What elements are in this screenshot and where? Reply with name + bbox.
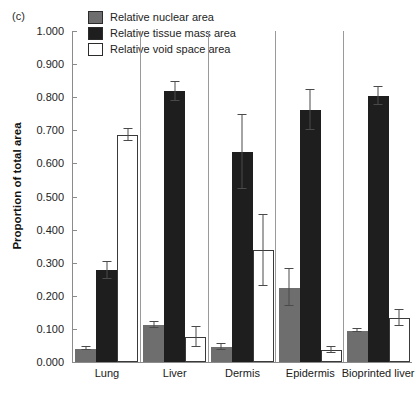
error-bar — [195, 327, 196, 348]
legend-item-label: Relative nuclear area — [110, 11, 214, 24]
bar-group-bars — [209, 31, 277, 362]
y-axis-tick-label: 0.100 — [4, 323, 64, 335]
error-bar-cap-top — [306, 89, 315, 90]
error-bar-cap-bottom — [327, 352, 336, 353]
error-bar-cap-top — [102, 261, 111, 262]
error-bar-cap-top — [327, 346, 336, 347]
error-bar-cap-bottom — [374, 104, 383, 105]
bar[interactable] — [143, 325, 164, 362]
bar[interactable] — [347, 331, 368, 362]
error-bar — [106, 262, 107, 279]
error-bar — [289, 269, 290, 305]
error-bar-cap-bottom — [285, 305, 294, 306]
error-bar-cap-bottom — [170, 100, 179, 101]
y-axis-tick-label: 0.900 — [4, 58, 64, 70]
error-bar-cap-top — [217, 343, 226, 344]
y-axis-tick-label: 0.300 — [4, 257, 64, 269]
bar[interactable] — [117, 135, 138, 362]
plot-area: 0.0000.1000.2000.3000.4000.5000.6000.700… — [72, 31, 412, 363]
error-bar — [174, 82, 175, 101]
error-bar-cap-bottom — [353, 331, 362, 332]
y-axis-tick-label: 0.400 — [4, 224, 64, 236]
error-bar-cap-top — [191, 326, 200, 327]
bar-slot — [368, 31, 389, 362]
error-bar-cap-top — [285, 268, 294, 269]
y-axis-tick-label: 0.200 — [4, 290, 64, 302]
error-bar-cap-top — [123, 128, 132, 129]
error-bar-cap-top — [395, 309, 404, 310]
bar-slot — [347, 31, 368, 362]
x-axis-line — [72, 362, 412, 363]
error-bar-cap-bottom — [238, 188, 247, 189]
bar-group-bars — [141, 31, 209, 362]
error-bar — [310, 90, 311, 130]
error-bar-cap-top — [170, 81, 179, 82]
panel-label: (c) — [12, 10, 25, 22]
bar-slot — [232, 31, 253, 362]
error-bar-cap-top — [353, 328, 362, 329]
error-bar-cap-top — [374, 86, 383, 87]
bar-slot — [253, 31, 274, 362]
y-axis-tick-mark — [73, 362, 77, 363]
error-bar-cap-bottom — [306, 129, 315, 130]
error-bar-cap-bottom — [149, 327, 158, 328]
error-bar-cap-top — [81, 346, 90, 347]
error-bar-cap-bottom — [217, 349, 226, 350]
bar-group-bars — [276, 31, 344, 362]
bar[interactable] — [368, 96, 389, 362]
legend-swatch-nuclear — [88, 11, 103, 24]
y-axis-tick-label: 0.600 — [4, 157, 64, 169]
bar[interactable] — [300, 110, 321, 362]
bar[interactable] — [96, 270, 117, 362]
bar[interactable] — [75, 349, 96, 362]
bar-group: Liver — [141, 31, 209, 362]
bar-slot — [164, 31, 185, 362]
bar-group: Epidermis — [276, 31, 344, 362]
error-bar-cap-bottom — [123, 140, 132, 141]
error-bar — [399, 310, 400, 326]
error-bar-cap-top — [149, 321, 158, 322]
error-bar-cap-top — [238, 114, 247, 115]
x-axis-category-label: Bioprinted liver — [330, 367, 416, 380]
bar-slot — [75, 31, 96, 362]
bar-group-bars — [73, 31, 141, 362]
error-bar — [378, 87, 379, 106]
bar-slot — [321, 31, 342, 362]
bar-groups: LungLiverDermisEpidermisBioprinted liver — [73, 31, 412, 362]
bar-slot — [279, 31, 300, 362]
bar-group: Lung — [73, 31, 141, 362]
bar[interactable] — [164, 91, 185, 362]
bar-slot — [389, 31, 410, 362]
bar-slot — [117, 31, 138, 362]
error-bar — [242, 115, 243, 189]
y-axis-tick-label: 0.800 — [4, 91, 64, 103]
bar-slot — [96, 31, 117, 362]
y-axis-tick-label: 0.700 — [4, 124, 64, 136]
y-axis-tick-label: 1.000 — [4, 25, 64, 37]
y-axis-tick-label: 0.000 — [4, 356, 64, 368]
error-bar-cap-bottom — [395, 325, 404, 326]
bar-slot — [300, 31, 321, 362]
error-bar-cap-bottom — [191, 346, 200, 347]
error-bar-cap-top — [259, 214, 268, 215]
figure-panel-c: (c) Relative nuclear areaRelative tissue… — [0, 0, 416, 403]
bar-slot — [185, 31, 206, 362]
bar-group-bars — [344, 31, 412, 362]
error-bar-cap-bottom — [81, 349, 90, 350]
error-bar-cap-bottom — [259, 285, 268, 286]
bar-slot — [211, 31, 232, 362]
bar-group: Bioprinted liver — [344, 31, 412, 362]
legend-item: Relative nuclear area — [88, 11, 236, 24]
y-axis-tick-label: 0.500 — [4, 191, 64, 203]
bar-group: Dermis — [209, 31, 277, 362]
error-bar-cap-bottom — [102, 278, 111, 279]
error-bar — [263, 215, 264, 285]
bar-slot — [143, 31, 164, 362]
